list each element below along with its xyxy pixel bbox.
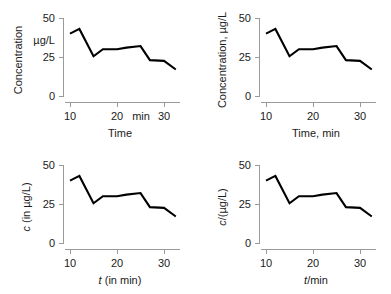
x-axis-unit-part: (in min) [102,274,142,286]
y-ticklabel-25: 25 [43,51,55,63]
y-ticklabel-50: 50 [239,159,251,171]
data-series-line [70,29,176,70]
chart-panel-top-left: 50 25 0 µg/L Concentration 10 20 30 min … [0,0,195,147]
plot-svg-bottom-right: 50 25 0 c/(µg/L) 10 20 30 t/min [196,147,391,294]
data-series-line [70,176,176,217]
chart-panel-top-right: 50 25 0 Concentration, µg/L 10 20 30 Tim… [196,0,391,147]
y-ticklabel-0: 0 [245,90,251,102]
x-axis-title: Time [108,127,132,139]
x-ticklabel-10: 10 [260,110,272,122]
x-ticklabel-20: 20 [307,110,319,122]
x-ticklabel-10: 10 [64,257,76,269]
plot-svg-top-right: 50 25 0 Concentration, µg/L 10 20 30 Tim… [196,0,391,147]
x-ticklabel-30: 30 [354,257,366,269]
x-ticklabel-10: 10 [260,257,272,269]
x-axis-title: t (in min) [99,274,142,286]
y-unit-label: µg/L [33,34,55,46]
data-series-line [266,176,372,217]
y-ticklabel-25: 25 [239,51,251,63]
y-ticklabel-25: 25 [43,198,55,210]
y-axis-title: c/(µg/L) [216,188,228,226]
y-axis-title: c (in µg/L) [20,182,32,231]
x-ticklabel-30: 30 [158,110,170,122]
x-unit-label: min [132,110,150,122]
plot-svg-top-left: 50 25 0 µg/L Concentration 10 20 30 min … [0,0,195,147]
plot-svg-bottom-left: 50 25 0 c (in µg/L) 10 20 30 t (in min) [0,147,195,294]
y-axis-unit-part: (in µg/L) [20,182,32,226]
data-series-line [266,29,372,70]
y-axis-title: Concentration, µg/L [216,12,228,108]
y-axis-title: Concentration [12,26,24,95]
x-axis-title: Time, min [292,127,340,139]
x-axis-title: t/min [304,274,328,286]
y-axis-unit-part: /(µg/L) [216,188,228,220]
y-ticklabel-0: 0 [245,237,251,249]
x-ticklabel-30: 30 [158,257,170,269]
x-axis-unit-part: /min [307,274,328,286]
x-ticklabel-20: 20 [307,257,319,269]
chart-panel-bottom-right: 50 25 0 c/(µg/L) 10 20 30 t/min [196,147,391,294]
y-ticklabel-0: 0 [49,237,55,249]
y-ticklabel-50: 50 [43,12,55,24]
y-ticklabel-0: 0 [49,90,55,102]
x-ticklabel-20: 20 [111,110,123,122]
y-ticklabel-50: 50 [43,159,55,171]
x-ticklabel-30: 30 [354,110,366,122]
y-ticklabel-50: 50 [239,12,251,24]
figure-canvas: 50 25 0 µg/L Concentration 10 20 30 min … [0,0,391,294]
y-ticklabel-25: 25 [239,198,251,210]
chart-panel-bottom-left: 50 25 0 c (in µg/L) 10 20 30 t (in min) [0,147,195,294]
x-ticklabel-10: 10 [64,110,76,122]
x-ticklabel-20: 20 [111,257,123,269]
